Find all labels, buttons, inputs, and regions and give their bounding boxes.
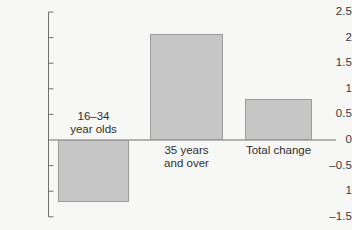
y-tick-label-0.5: 0.5 bbox=[308, 108, 352, 120]
plot-area: 2.5 2 1.5 1 0.5 0 –0.5 1 –1.5 16–34 year… bbox=[0, 0, 352, 230]
y-tick-label-neg1: 1 bbox=[308, 185, 352, 197]
bar-35-years-and-over[interactable] bbox=[150, 34, 223, 141]
y-tick-label-neg0.5: –0.5 bbox=[308, 160, 352, 172]
y-tick-label-1.5: 1.5 bbox=[308, 57, 352, 69]
y-tick-label-neg1.5: –1.5 bbox=[308, 211, 352, 223]
bar-16-34-year-olds[interactable] bbox=[58, 140, 129, 202]
bar-label-total-change: Total change bbox=[236, 144, 321, 157]
y-tick-label-2.5: 2.5 bbox=[308, 6, 352, 18]
bar-label-16-34-year-olds: 16–34 year olds bbox=[58, 110, 129, 136]
y-tick-label-1: 1 bbox=[308, 83, 352, 95]
bar-chart-figure: 2.5 2 1.5 1 0.5 0 –0.5 1 –1.5 16–34 year… bbox=[0, 0, 352, 230]
y-tick-label-2: 2 bbox=[308, 32, 352, 44]
bar-label-35-years-and-over: 35 years and over bbox=[148, 144, 225, 170]
bar-total-change[interactable] bbox=[245, 99, 312, 140]
